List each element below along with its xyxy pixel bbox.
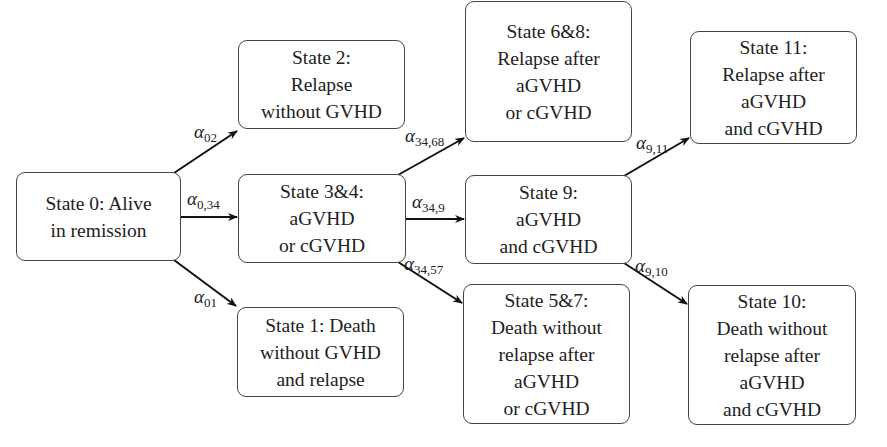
transition-label-34-68: α34,68 <box>405 126 444 148</box>
state-label: relapse after <box>499 341 595 368</box>
state-label: State 11: <box>739 34 807 61</box>
state-label: State 2: <box>292 44 351 71</box>
state-label: State 5&7: <box>505 287 589 314</box>
state-2-box: State 2: Relapse without GVHD <box>238 40 405 129</box>
state-label: aGVHD <box>516 72 581 99</box>
transition-label-01: α01 <box>194 287 217 309</box>
transition-label-9-11: α9,11 <box>636 133 668 155</box>
state-label: aGVHD <box>290 205 355 232</box>
state-label: in remission <box>51 217 147 244</box>
state-11-box: State 11: Relapse after aGVHD and cGVHD <box>690 31 857 144</box>
state-label: and relapse <box>276 366 364 393</box>
state-label: State 3&4: <box>280 178 364 205</box>
state-label: and cGVHD <box>723 396 821 423</box>
state-label: aGVHD <box>514 368 579 395</box>
state-3-4-box: State 3&4: aGVHD or cGVHD <box>238 174 406 263</box>
transition-label-0-34: α0,34 <box>187 189 220 211</box>
transition-label-34-57: α34,57 <box>404 254 443 276</box>
state-label: Death without <box>491 314 602 341</box>
state-label: State 6&8: <box>507 18 591 45</box>
transition-label-9-10: α9,10 <box>635 256 668 278</box>
transition-label-34-9: α34,9 <box>412 192 445 214</box>
state-1-box: State 1: Death without GVHD and relapse <box>237 307 404 397</box>
state-label: Relapse after <box>497 45 599 72</box>
state-label: Death without <box>716 315 827 342</box>
state-label: Relapse after <box>722 61 824 88</box>
state-label: or cGVHD <box>503 395 589 422</box>
state-label: and cGVHD <box>724 115 822 142</box>
state-6-8-box: State 6&8: Relapse after aGVHD or cGVHD <box>465 1 632 142</box>
state-label: aGVHD <box>740 369 805 396</box>
state-label: State 10: <box>738 288 807 315</box>
state-label: without GVHD <box>261 98 382 125</box>
state-label: Relapse <box>291 71 353 98</box>
state-0-box: State 0: Alive in remission <box>16 172 181 261</box>
state-5-7-box: State 5&7: Death without relapse after a… <box>463 284 630 424</box>
state-label: State 1: Death <box>265 312 375 339</box>
state-9-box: State 9: aGVHD and cGVHD <box>465 175 632 264</box>
state-label: State 0: Alive <box>45 190 151 217</box>
state-label: and cGVHD <box>499 233 597 260</box>
state-label: without GVHD <box>260 339 381 366</box>
state-label: State 9: <box>519 179 578 206</box>
state-label: or cGVHD <box>279 232 365 259</box>
transition-label-02: α02 <box>194 122 217 144</box>
state-label: relapse after <box>724 342 820 369</box>
state-label: aGVHD <box>516 206 581 233</box>
state-label: aGVHD <box>741 88 806 115</box>
state-label: or cGVHD <box>505 99 591 126</box>
state-10-box: State 10: Death without relapse after aG… <box>688 285 856 425</box>
